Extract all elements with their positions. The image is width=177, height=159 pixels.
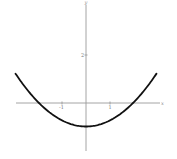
y-tick-label-2: 2 [81,52,84,58]
x-axis-label: x [161,100,164,106]
x-tick-label-neg1: -1 [59,104,64,110]
y-axis-label: y [84,0,88,6]
parabola-plot: -1 1 2 x y [0,0,177,159]
x-tick-label-pos1: 1 [109,104,112,110]
